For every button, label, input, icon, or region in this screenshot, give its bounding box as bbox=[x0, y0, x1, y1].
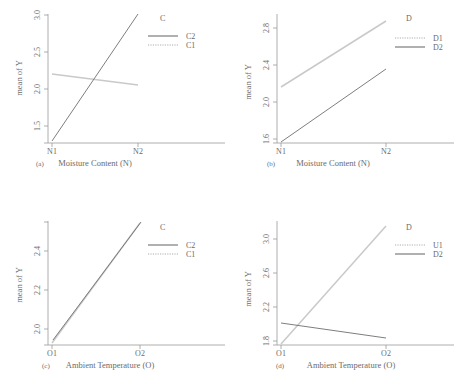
legend-title: D bbox=[406, 14, 412, 23]
panel-tag: (d) bbox=[276, 362, 285, 370]
legend-title: C bbox=[160, 223, 165, 232]
y-tick-label: 3.0 bbox=[262, 234, 271, 244]
series-line-c1 bbox=[52, 74, 138, 85]
y-tick-label: 1.8 bbox=[262, 336, 271, 346]
panel-b-plot: 1.6 2.0 2.4 2.8 mean of Y N1 N2 Moisture… bbox=[229, 0, 458, 193]
y-tick-label: 2.0 bbox=[33, 84, 42, 94]
y-tick-label: 1.6 bbox=[262, 134, 271, 144]
x-axis-label: Ambient Temperature (O) bbox=[66, 360, 155, 370]
interaction-plot-figure: 1.5 2.0 2.5 3.0 mean of Y N1 N2 Moisture… bbox=[0, 0, 458, 387]
panel-a: 1.5 2.0 2.5 3.0 mean of Y N1 N2 Moisture… bbox=[0, 0, 229, 193]
y-tick-label: 2.4 bbox=[33, 246, 42, 256]
y-axis-label: mean of Y bbox=[243, 64, 253, 100]
y-tick-label: 2.6 bbox=[262, 268, 271, 278]
panel-d-plot: 1.8 2.2 2.6 3.0 mean of Y O1 O2 Ambient … bbox=[229, 193, 458, 386]
legend-label-u1: U1 bbox=[433, 241, 443, 250]
x-axis-label: Moisture Content (N) bbox=[296, 158, 370, 168]
panel-a-plot: 1.5 2.0 2.5 3.0 mean of Y N1 N2 Moisture… bbox=[0, 0, 229, 193]
x-axis-label: Ambient Temperature (O) bbox=[307, 360, 396, 370]
y-tick-label: 2.8 bbox=[262, 23, 271, 33]
x-tick-label: N1 bbox=[47, 147, 57, 156]
legend-label-c1: C1 bbox=[186, 250, 195, 259]
panel-b: 1.6 2.0 2.4 2.8 mean of Y N1 N2 Moisture… bbox=[229, 0, 458, 193]
x-tick-label: O2 bbox=[135, 349, 145, 358]
y-tick-label: 2.0 bbox=[33, 324, 42, 334]
panel-tag: (b) bbox=[267, 160, 276, 168]
legend-label-d2: D2 bbox=[433, 43, 443, 52]
y-axis-label: mean of Y bbox=[243, 271, 253, 307]
x-axis-label: Moisture Content (N) bbox=[58, 158, 132, 168]
x-tick-label: N1 bbox=[276, 147, 286, 156]
y-tick-label: 2.4 bbox=[262, 60, 271, 70]
legend-title: D bbox=[406, 223, 412, 232]
series-line-c2 bbox=[52, 14, 138, 141]
series-line-d2 bbox=[281, 69, 386, 142]
legend-label-d2: D2 bbox=[433, 250, 443, 259]
x-tick-label: O2 bbox=[381, 349, 391, 358]
y-tick-label: 3.0 bbox=[33, 10, 42, 20]
legend-label-c2: C2 bbox=[186, 32, 195, 41]
panel-c: 2.0 2.2 2.4 mean of Y O1 O2 Ambient Temp… bbox=[0, 193, 229, 386]
legend-title: C bbox=[160, 14, 165, 23]
x-tick-label: N2 bbox=[381, 147, 391, 156]
legend-label-d1: D1 bbox=[433, 34, 443, 43]
y-tick-label: 2.0 bbox=[262, 97, 271, 107]
x-tick-label: N2 bbox=[133, 147, 143, 156]
panel-d: 1.8 2.2 2.6 3.0 mean of Y O1 O2 Ambient … bbox=[229, 193, 458, 386]
y-axis-label: mean of Y bbox=[14, 267, 24, 303]
series-line-u1 bbox=[281, 226, 386, 344]
legend-label-c1: C1 bbox=[186, 41, 195, 50]
panel-tag: (c) bbox=[42, 362, 50, 370]
series-line-d1 bbox=[281, 21, 386, 87]
x-tick-label: O1 bbox=[47, 349, 57, 358]
y-tick-label: 2.2 bbox=[33, 285, 42, 295]
legend-label-c2: C2 bbox=[186, 241, 195, 250]
y-tick-label: 2.2 bbox=[262, 302, 271, 312]
x-tick-label: O1 bbox=[276, 349, 286, 358]
y-tick-label: 2.5 bbox=[33, 47, 42, 57]
series-line-d2 bbox=[281, 323, 386, 338]
panel-c-plot: 2.0 2.2 2.4 mean of Y O1 O2 Ambient Temp… bbox=[0, 193, 229, 386]
y-tick-label: 1.5 bbox=[33, 121, 42, 131]
series-line-c2 bbox=[53, 222, 141, 340]
panel-tag: (a) bbox=[36, 160, 44, 168]
y-axis-label: mean of Y bbox=[14, 60, 24, 96]
